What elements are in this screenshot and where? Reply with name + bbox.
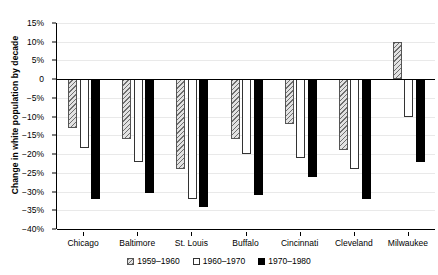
y-axis-tick-label: 15% bbox=[27, 18, 44, 28]
legend-swatch-icon bbox=[193, 258, 200, 265]
grid-line bbox=[57, 42, 435, 43]
bar bbox=[134, 79, 143, 161]
bar bbox=[176, 79, 185, 169]
grid-line bbox=[57, 23, 435, 24]
bar bbox=[188, 79, 197, 199]
bar bbox=[285, 79, 294, 124]
y-axis-tick-label: −5% bbox=[27, 93, 44, 103]
y-axis-tick-label: −40% bbox=[22, 224, 44, 234]
y-axis-tick-labels: 15%10%5%0−5%−10%−15%−20%−25%−30%−35%−40% bbox=[0, 23, 50, 229]
y-axis-tick-label: 5% bbox=[32, 55, 44, 65]
x-axis-tick-mark bbox=[408, 232, 409, 236]
y-axis-tick-label: 0 bbox=[39, 74, 44, 84]
legend-label: 1959–1960 bbox=[137, 256, 180, 266]
bar bbox=[80, 79, 89, 148]
bar bbox=[242, 79, 251, 154]
bar bbox=[339, 79, 348, 150]
bar bbox=[145, 79, 154, 193]
plot-area bbox=[56, 23, 435, 229]
y-axis-tick-label: −35% bbox=[22, 205, 44, 215]
legend-item: 1970–1980 bbox=[258, 256, 311, 266]
bar bbox=[91, 79, 100, 199]
bar bbox=[393, 42, 402, 79]
bar-chart: Change in white population by decade 15%… bbox=[0, 0, 438, 275]
x-axis-tick-mark bbox=[300, 232, 301, 236]
bar bbox=[254, 79, 263, 195]
x-axis-tick-labels: ChicagoBaltimoreSt. LouisBuffaloCincinna… bbox=[56, 232, 435, 250]
bar bbox=[350, 79, 359, 169]
x-axis-tick-mark bbox=[191, 232, 192, 236]
y-axis-tick-label: 10% bbox=[27, 37, 44, 47]
legend-label: 1960–1970 bbox=[203, 256, 246, 266]
legend-item: 1960–1970 bbox=[193, 256, 246, 266]
x-axis-tick-mark bbox=[354, 232, 355, 236]
grid-line bbox=[57, 192, 435, 193]
legend-item: 1959–1960 bbox=[127, 256, 180, 266]
chart-legend: 1959–19601960–19701970–1980 bbox=[0, 256, 438, 266]
zero-axis-line bbox=[57, 79, 435, 80]
y-axis-tick-label: −25% bbox=[22, 168, 44, 178]
bar bbox=[68, 79, 77, 128]
bar bbox=[416, 79, 425, 161]
y-axis-tick-label: −10% bbox=[22, 112, 44, 122]
x-axis-tick-mark bbox=[246, 232, 247, 236]
x-axis-tick-label: Baltimore bbox=[119, 238, 155, 248]
bar bbox=[122, 79, 131, 139]
legend-label: 1970–1980 bbox=[268, 256, 311, 266]
bar bbox=[308, 79, 317, 176]
bar bbox=[362, 79, 371, 199]
y-axis-tick-label: −30% bbox=[22, 187, 44, 197]
x-axis-tick-label: Buffalo bbox=[232, 238, 258, 248]
x-axis-tick-label: Chicago bbox=[67, 238, 98, 248]
x-axis-tick-mark bbox=[137, 232, 138, 236]
x-axis-tick-label: St. Louis bbox=[175, 238, 208, 248]
grid-line bbox=[57, 154, 435, 155]
bar bbox=[231, 79, 240, 139]
x-axis-tick-label: Cincinnati bbox=[281, 238, 318, 248]
x-axis-line bbox=[57, 229, 435, 230]
y-axis-tick-label: −15% bbox=[22, 130, 44, 140]
bar bbox=[404, 79, 413, 116]
grid-line bbox=[57, 173, 435, 174]
x-axis-tick-label: Cleveland bbox=[335, 238, 373, 248]
grid-line bbox=[57, 60, 435, 61]
legend-swatch-icon bbox=[127, 258, 134, 265]
x-axis-tick-mark bbox=[83, 232, 84, 236]
y-axis-tick-label: −20% bbox=[22, 149, 44, 159]
bar bbox=[199, 79, 208, 206]
x-axis-tick-label: Milwaukee bbox=[388, 238, 428, 248]
legend-swatch-icon bbox=[258, 258, 265, 265]
bar bbox=[296, 79, 305, 158]
plot-inner bbox=[57, 23, 435, 229]
grid-line bbox=[57, 210, 435, 211]
